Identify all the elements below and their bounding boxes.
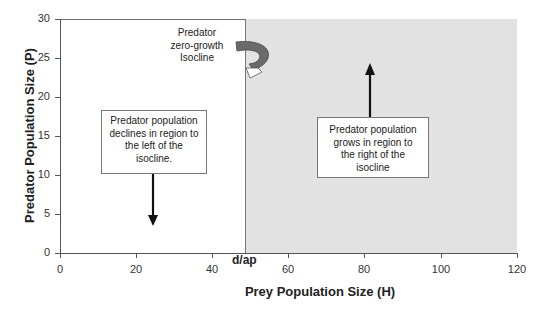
annotation-line: Isocline [156,52,238,65]
y-tick [55,136,60,137]
x-tick-label: 20 [116,263,156,275]
annotation-line: Predator population [105,115,203,128]
y-tick [55,175,60,176]
y-axis-title: Predator Population Size (P) [22,41,37,231]
y-tick-label: 0 [20,246,50,258]
annotation-line: isocline [321,162,425,175]
y-tick-label: 30 [20,12,50,24]
x-tick-label: 100 [421,263,461,275]
annotation-line: isocline. [105,153,203,166]
y-tick [55,58,60,59]
x-tick-label: 120 [497,263,535,275]
x-tick-label: 60 [268,263,308,275]
y-tick [55,19,60,20]
annotation-line: Predator [156,27,238,40]
annotation-line: zero-growth [156,40,238,53]
y-tick [55,214,60,215]
x-tick [364,253,365,258]
x-tick [60,253,61,258]
y-axis [60,19,61,254]
annotation-line: declines in region to [105,128,203,141]
x-tick-label: 40 [192,263,232,275]
annotation-line: grows in region to [321,137,425,150]
predator-isocline-chart: 0 20 40 60 80 100 120 30 25 20 15 10 5 0… [0,0,535,314]
annotation-line: the left of the [105,140,203,153]
isocline-annotation: Predator zero-growth Isocline [156,27,238,65]
x-tick [136,253,137,258]
y-tick [55,253,60,254]
y-tick [55,97,60,98]
annotation-line: Predator population [321,124,425,137]
x-tick [441,253,442,258]
decline-annotation-box: Predator population declines in region t… [101,110,207,174]
x-tick [288,253,289,258]
isocline-value-label: d/ap [232,253,257,267]
x-tick [517,253,518,258]
growth-annotation-box: Predator population grows in region to t… [317,117,429,178]
x-axis [60,253,518,254]
x-tick [212,253,213,258]
annotation-line: the right of the [321,149,425,162]
x-axis-title: Prey Population Size (H) [200,284,440,299]
predator-zero-growth-isocline [245,19,246,253]
x-tick-label: 80 [344,263,384,275]
x-tick-label: 0 [40,263,80,275]
